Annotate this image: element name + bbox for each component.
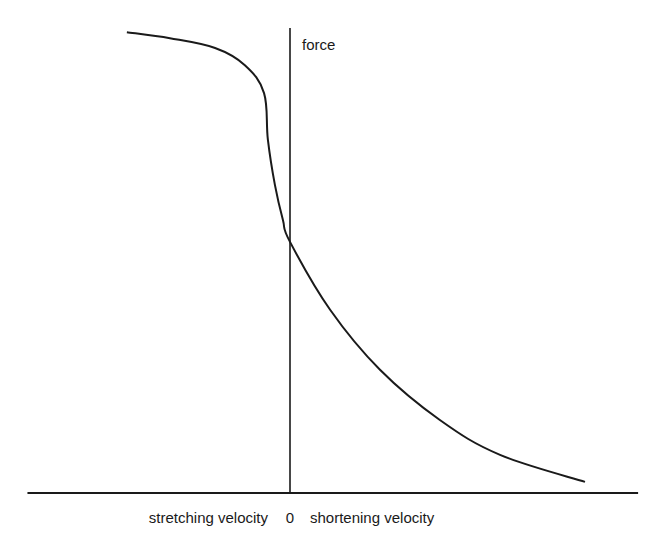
force-velocity-curve xyxy=(127,32,585,482)
force-velocity-chart: force stretching velocity 0 shortening v… xyxy=(0,0,667,552)
x-axis-label-shortening: shortening velocity xyxy=(310,509,435,526)
x-axis-label-stretching: stretching velocity xyxy=(149,509,269,526)
origin-tick-label: 0 xyxy=(286,509,294,526)
y-axis-label: force xyxy=(302,36,335,53)
